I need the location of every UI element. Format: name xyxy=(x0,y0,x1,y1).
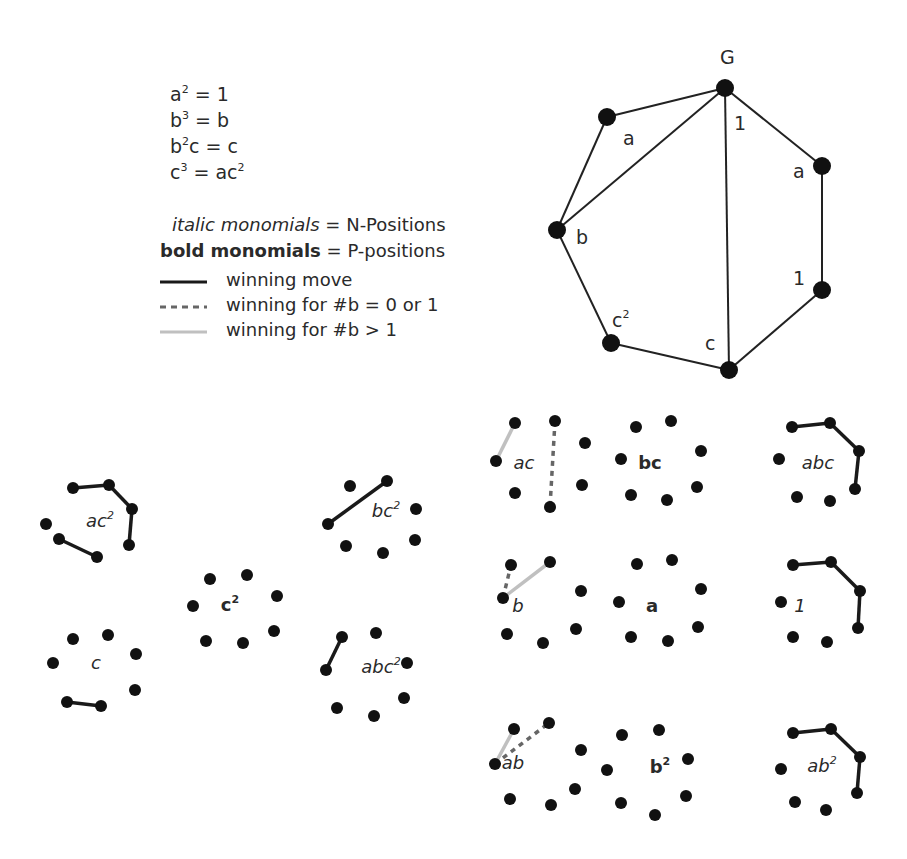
position-node xyxy=(505,559,517,571)
position-node xyxy=(791,491,803,503)
position-node xyxy=(616,729,628,741)
dashed-edge xyxy=(550,421,555,507)
position-node xyxy=(398,692,410,704)
position-node xyxy=(268,625,280,637)
position-label: b2 xyxy=(650,755,671,777)
graph-nodes xyxy=(548,79,831,379)
position-node xyxy=(631,558,643,570)
position-node xyxy=(680,790,692,802)
position-diagram: abc2 xyxy=(320,627,413,722)
position-node xyxy=(579,437,591,449)
graph-label-c2: c2 xyxy=(612,308,629,331)
position-node xyxy=(187,600,199,612)
position-diagram: c2 xyxy=(187,569,283,649)
position-node xyxy=(824,417,836,429)
position-node xyxy=(852,622,864,634)
position-label: bc xyxy=(638,452,662,473)
position-node xyxy=(789,796,801,808)
position-node xyxy=(377,547,389,559)
position-node xyxy=(825,556,837,568)
position-label: abc2 xyxy=(361,655,400,677)
position-node xyxy=(601,764,613,776)
position-node xyxy=(271,590,283,602)
position-node xyxy=(322,518,334,530)
position-node xyxy=(575,585,587,597)
position-node xyxy=(130,648,142,660)
position-node xyxy=(820,804,832,816)
position-label: abc xyxy=(802,452,834,473)
position-node xyxy=(576,479,588,491)
position-label: c xyxy=(91,652,101,673)
position-node xyxy=(775,596,787,608)
position-node xyxy=(241,569,253,581)
position-node xyxy=(204,573,216,585)
position-node xyxy=(67,633,79,645)
winning-move-edge xyxy=(831,562,860,591)
position-node xyxy=(126,503,138,515)
graph-label-c: c xyxy=(705,332,715,354)
position-node xyxy=(129,684,141,696)
position-node xyxy=(123,539,135,551)
graph-g xyxy=(557,88,822,370)
position-node xyxy=(570,623,582,635)
graph-label-1b: 1 xyxy=(793,267,805,289)
position-diagram: 1 xyxy=(775,556,866,648)
position-node xyxy=(653,724,665,736)
position-label: ac xyxy=(514,452,535,473)
position-node xyxy=(410,503,422,515)
position-node xyxy=(854,751,866,763)
position-node xyxy=(773,453,785,465)
position-diagram: bc xyxy=(615,415,707,506)
position-diagram: abc xyxy=(773,417,865,507)
position-node xyxy=(91,551,103,563)
graph-title: G xyxy=(720,46,735,68)
position-node xyxy=(695,583,707,595)
position-node xyxy=(665,415,677,427)
graph-label-a2: a xyxy=(793,160,805,182)
position-node xyxy=(692,621,704,633)
position-diagram: ab2 xyxy=(775,723,866,816)
position-node xyxy=(331,702,343,714)
winning-move-edge xyxy=(831,729,860,757)
position-node xyxy=(508,723,520,735)
position-node xyxy=(649,809,661,821)
position-node xyxy=(40,518,52,530)
position-diagram: ac xyxy=(490,415,591,513)
position-node xyxy=(775,763,787,775)
position-diagram: bc2 xyxy=(322,475,422,559)
position-label: b xyxy=(512,595,523,616)
position-label: ab xyxy=(502,752,524,773)
position-node xyxy=(821,636,833,648)
graph-label-b: b xyxy=(576,226,588,248)
position-node xyxy=(613,596,625,608)
position-label: ac2 xyxy=(86,509,114,531)
position-node xyxy=(695,445,707,457)
position-node xyxy=(381,475,393,487)
position-node xyxy=(787,727,799,739)
position-label: a xyxy=(646,595,658,616)
position-node xyxy=(661,494,673,506)
position-node xyxy=(368,710,380,722)
position-label: bc2 xyxy=(372,499,400,521)
position-diagram: b xyxy=(497,556,587,649)
position-node xyxy=(549,415,561,427)
position-node xyxy=(615,453,627,465)
position-label: 1 xyxy=(794,595,805,616)
position-node xyxy=(682,753,694,765)
light-edge xyxy=(496,423,515,461)
position-node xyxy=(569,783,581,795)
position-node xyxy=(490,455,502,467)
graph-label-1a: 1 xyxy=(734,112,746,134)
position-node xyxy=(67,482,79,494)
position-node xyxy=(851,787,863,799)
position-node xyxy=(662,635,674,647)
position-node xyxy=(787,631,799,643)
position-node xyxy=(545,799,557,811)
winning-move-edge xyxy=(59,539,97,557)
position-node xyxy=(786,421,798,433)
position-node xyxy=(370,627,382,639)
position-diagram: b2 xyxy=(601,724,694,821)
position-node xyxy=(853,445,865,457)
position-node xyxy=(409,534,421,546)
position-node xyxy=(47,657,59,669)
